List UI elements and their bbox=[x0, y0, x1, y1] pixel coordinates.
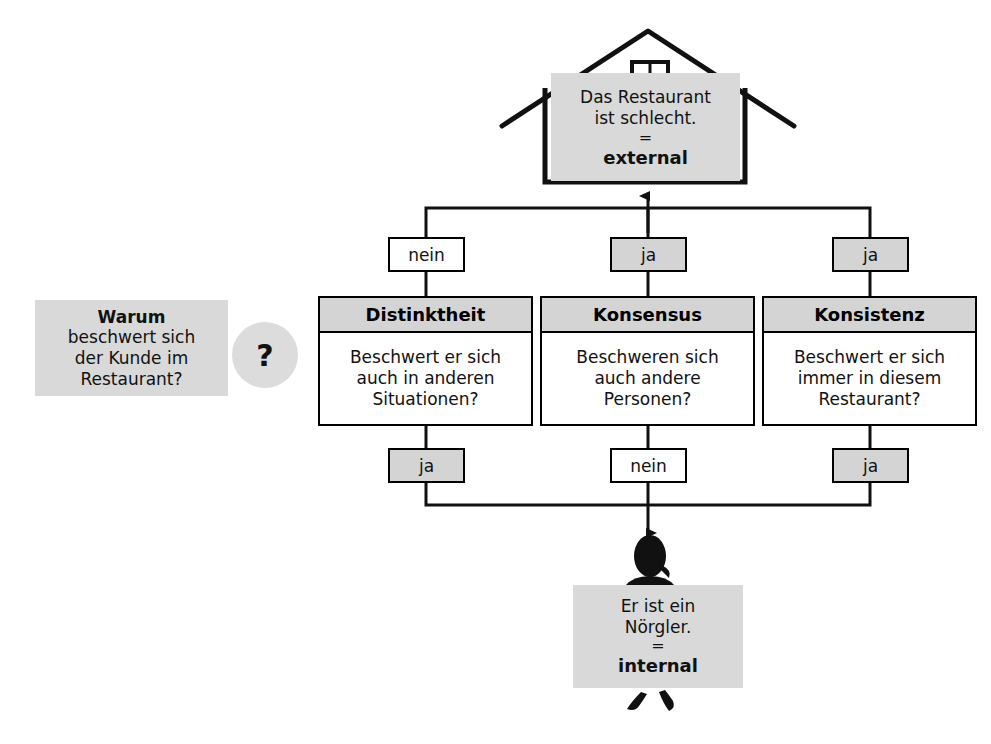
internal-attribution-label: internal bbox=[618, 655, 698, 677]
criterion-question-line-1: Beschweren sich bbox=[576, 347, 718, 368]
criterion-card-konsistenz[interactable]: Konsistenz Beschwert er sich immer in di… bbox=[762, 296, 977, 426]
criterion-title-distinktheit: Distinktheit bbox=[320, 298, 531, 333]
external-attribution-label: external bbox=[603, 147, 688, 169]
root-question-line-2: beschwert sich bbox=[68, 327, 195, 348]
criterion-question-distinktheit: Beschwert er sich auch in anderen Situat… bbox=[320, 333, 531, 424]
internal-line-2: Nörgler. bbox=[625, 617, 692, 638]
criterion-card-konsensus[interactable]: Konsensus Beschweren sich auch andere Pe… bbox=[540, 296, 755, 426]
criterion-question-line-2: auch andere bbox=[576, 368, 718, 389]
criterion-question-line-1: Beschwert er sich bbox=[350, 347, 501, 368]
root-question-panel: Warum beschwert sich der Kunde im Restau… bbox=[35, 300, 228, 396]
attribution-diagram: Warum beschwert sich der Kunde im Restau… bbox=[0, 0, 991, 744]
criterion-question-konsensus: Beschweren sich auch andere Personen? bbox=[542, 333, 753, 424]
root-question-line-3: der Kunde im bbox=[75, 348, 188, 369]
internal-attribution-panel: Er ist ein Nörgler. = internal bbox=[573, 585, 743, 688]
criterion-question-line-3: Restaurant? bbox=[794, 389, 945, 410]
internal-line-1: Er ist ein bbox=[621, 596, 696, 617]
criterion-question-line-2: immer in diesem bbox=[794, 368, 945, 389]
answer-chip-konsistenz-top[interactable]: ja bbox=[832, 237, 909, 272]
criterion-card-distinktheit[interactable]: Distinktheit Beschwert er sich auch in a… bbox=[318, 296, 533, 426]
answer-chip-konsensus-bottom[interactable]: nein bbox=[610, 448, 687, 483]
root-question-emphasis: Warum bbox=[98, 307, 166, 328]
external-attribution-panel: Das Restaurant ist schlecht. = external bbox=[551, 73, 740, 181]
criterion-title-konsistenz: Konsistenz bbox=[764, 298, 975, 333]
criterion-title-konsensus: Konsensus bbox=[542, 298, 753, 333]
external-equals-sign: = bbox=[639, 129, 652, 147]
answer-chip-konsistenz-bottom[interactable]: ja bbox=[832, 448, 909, 483]
criterion-question-line-3: Personen? bbox=[576, 389, 718, 410]
root-question-line-4: Restaurant? bbox=[80, 369, 182, 390]
criterion-question-konsistenz: Beschwert er sich immer in diesem Restau… bbox=[764, 333, 975, 424]
answer-chip-distinktheit-bottom[interactable]: ja bbox=[388, 448, 465, 483]
question-mark-icon: ? bbox=[232, 322, 298, 388]
internal-equals-sign: = bbox=[651, 637, 664, 655]
criterion-question-line-1: Beschwert er sich bbox=[794, 347, 945, 368]
external-line-1: Das Restaurant bbox=[580, 87, 711, 108]
answer-chip-konsensus-top[interactable]: ja bbox=[610, 237, 687, 272]
answer-chip-distinktheit-top[interactable]: nein bbox=[388, 237, 465, 272]
external-line-2: ist schlecht. bbox=[595, 108, 697, 129]
criterion-question-line-2: auch in anderen bbox=[350, 368, 501, 389]
criterion-question-line-3: Situationen? bbox=[350, 389, 501, 410]
